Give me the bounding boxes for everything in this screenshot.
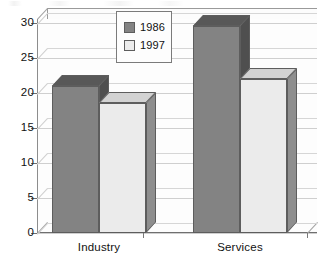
bar-front-face [99, 103, 146, 233]
y-tick-label-0: 0 [8, 227, 34, 239]
bar-industry-1997[interactable] [99, 103, 146, 233]
gridline-0 [37, 233, 317, 234]
legend-entry-1997[interactable]: 1997 [124, 36, 171, 54]
bar-side-face [287, 68, 297, 233]
bar-front-face [193, 26, 240, 233]
y-tick-label-10: 10 [8, 157, 34, 169]
y-tick-label-15: 15 [8, 122, 34, 134]
gridline-30 [37, 23, 317, 24]
gridline-25 [37, 58, 317, 59]
x-tick-divider [143, 233, 144, 238]
bar-industry-1986[interactable] [52, 86, 99, 233]
y-tick-label-25: 25 [8, 52, 34, 64]
legend-label-1997: 1997 [140, 40, 165, 51]
x-category-label-services: Services [195, 241, 285, 253]
legend-entry-1986[interactable]: 1986 [124, 18, 171, 36]
x-category-label-industry: Industry [54, 241, 144, 253]
legend-swatch-icon-1997 [124, 40, 135, 51]
bar-services-1997[interactable] [240, 79, 287, 233]
bar-front-face [240, 79, 287, 233]
bar-chart: 30 25 20 15 10 5 0 Industry Services 198… [0, 0, 330, 263]
y-tick-label-5: 5 [8, 192, 34, 204]
legend: 1986 1997 [116, 11, 172, 63]
bar-front-face [52, 86, 99, 233]
y-tick-label-20: 20 [8, 87, 34, 99]
legend-swatch-icon-1986 [124, 22, 135, 33]
scan-artifact [8, 1, 308, 6]
legend-label-1986: 1986 [140, 22, 165, 33]
bar-services-1986[interactable] [193, 26, 240, 233]
x-tick-end [307, 233, 308, 238]
bar-side-face [146, 92, 156, 233]
y-tick-label-30: 30 [8, 17, 34, 29]
